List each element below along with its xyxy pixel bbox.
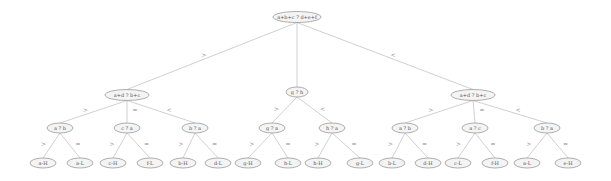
node-label: c ? a — [121, 125, 133, 131]
leaf-node: f-H — [482, 158, 508, 168]
edge-label: > — [526, 140, 531, 147]
tree-edge — [60, 101, 127, 124]
edge-label: = — [490, 140, 495, 147]
decision-node: a+b+c ? d+e+f — [273, 12, 321, 23]
node-label: a ? b — [399, 125, 411, 131]
decision-node: a ? b — [392, 123, 418, 133]
leaf-node: f-L — [137, 158, 163, 168]
edge-label: > — [249, 140, 254, 147]
tree-edge — [473, 101, 475, 124]
node-label: g-L — [356, 160, 365, 167]
leaf-node: e-H — [555, 158, 581, 168]
decision-node: a ? b — [47, 123, 73, 133]
node-label: h-L — [284, 160, 293, 166]
edge-label: = — [563, 140, 568, 147]
edge-label: > — [109, 140, 114, 147]
edge-label: > — [178, 140, 183, 147]
decision-node: a+d ? b+c — [451, 90, 495, 101]
node-label: a+b+c ? d+e+f — [277, 14, 318, 20]
edge-label: > — [274, 105, 279, 112]
edge-label: > — [428, 106, 433, 113]
leaf-node: d-H — [415, 158, 441, 168]
node-label: h ? a — [326, 125, 338, 131]
node-label: h-H — [313, 160, 323, 166]
leaf-node: g-L — [347, 158, 373, 168]
leaf-node: h-L — [275, 158, 301, 168]
decision-node: g ? a — [259, 123, 285, 133]
node-label: b-H — [178, 160, 188, 166]
node-label: a-L — [76, 160, 85, 166]
tree-edge — [297, 97, 332, 123]
edge-label: < — [515, 106, 520, 113]
node-label: a ? c — [469, 125, 481, 131]
node-label: f-H — [491, 160, 499, 166]
leaf-node: h-H — [305, 158, 331, 168]
decision-node: g ? h — [286, 87, 308, 97]
edge-label: < — [166, 106, 171, 113]
node-label: a+d ? b+c — [460, 92, 487, 98]
edge-label: = — [422, 140, 427, 147]
node-label: c-L — [454, 160, 462, 166]
node-label: d-H — [423, 160, 433, 166]
edge-label: = — [75, 140, 80, 147]
node-label: g-H — [243, 160, 253, 167]
edge-label: > — [83, 106, 88, 113]
node-label: c-H — [109, 160, 118, 166]
edge-label: > — [456, 140, 461, 147]
tree-edge — [405, 101, 473, 124]
node-label: b ? a — [189, 125, 201, 131]
tree-edge — [113, 133, 127, 158]
edge-label: > — [201, 51, 206, 58]
edge-label: = — [479, 106, 484, 113]
leaf-node: c-H — [100, 158, 126, 168]
decision-node: h ? a — [319, 123, 345, 133]
edge-label: = — [351, 140, 356, 147]
edge-label: = — [285, 140, 290, 147]
leaf-node: a-L — [67, 158, 93, 168]
node-label: d-L — [214, 160, 223, 166]
edge-label: = — [144, 140, 149, 147]
tree-edge — [392, 133, 405, 158]
tree-edge — [297, 23, 473, 90]
leaf-node: g-H — [235, 158, 261, 168]
decision-node: b ? a — [182, 123, 208, 133]
edge-label: > — [41, 140, 46, 147]
node-label: g ? a — [266, 125, 278, 132]
decision-node: b ? a — [534, 123, 560, 133]
edge-label: = — [212, 140, 217, 147]
edge-label: > — [314, 140, 319, 147]
edge-label: < — [320, 105, 325, 112]
leaf-node: b-L — [379, 158, 405, 168]
node-label: b ? a — [541, 125, 553, 131]
node-label: a-L — [523, 160, 532, 166]
tree-edge — [318, 133, 332, 158]
leaf-node: c-L — [445, 158, 471, 168]
tree-edge — [127, 23, 297, 90]
node-label: e-H — [563, 160, 573, 166]
decision-node: c ? a — [114, 123, 140, 133]
edge-label: > — [388, 140, 393, 147]
leaf-node: d-L — [205, 158, 231, 168]
decision-node: a+d ? b+c — [105, 90, 149, 101]
node-label: a-H — [38, 160, 48, 166]
edge-label: < — [390, 51, 395, 58]
node-label: a ? b — [54, 125, 66, 131]
edge-label: = — [132, 106, 137, 113]
decision-tree-diagram: >>>==>=<>=>>=<>=<>>==>=<>= a+b+c ? d+e+f… — [0, 0, 611, 181]
leaf-node: a-H — [30, 158, 56, 168]
leaf-node: b-H — [170, 158, 196, 168]
node-label: g ? h — [291, 89, 304, 96]
leaf-node: a-L — [514, 158, 540, 168]
tree-edge — [183, 133, 195, 158]
node-label: b-L — [388, 160, 397, 166]
node-label: a+d ? b+c — [114, 92, 141, 98]
node-label: f-L — [147, 160, 154, 166]
decision-node: a ? c — [462, 123, 488, 133]
